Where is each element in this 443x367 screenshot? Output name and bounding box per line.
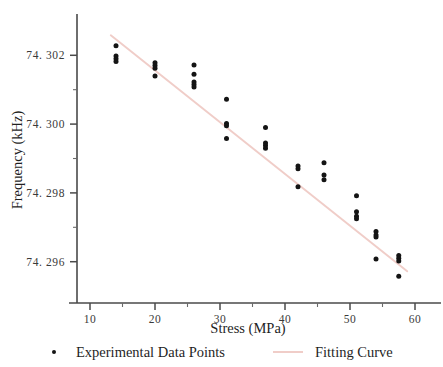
y-tick-labels: 74. 29674. 29874. 30074. 302 — [26, 49, 65, 267]
data-point — [153, 66, 158, 71]
legend-label-points: Experimental Data Points — [76, 344, 225, 361]
legend-entry-points: Experimental Data Points — [52, 344, 225, 361]
chart-figure: 74. 29674. 29874. 30074. 302 10203040506… — [0, 0, 443, 367]
data-point — [192, 62, 197, 67]
data-point — [224, 136, 229, 141]
data-points — [114, 43, 402, 279]
x-tick-label: 50 — [344, 313, 357, 325]
scatter-plot: 74. 29674. 29874. 30074. 302 10203040506… — [0, 0, 443, 367]
x-axis-title: Stress (MPa) — [210, 320, 285, 337]
data-point — [322, 173, 327, 178]
axes — [69, 14, 441, 303]
data-point — [396, 274, 401, 279]
legend-entry-fit: Fitting Curve — [273, 344, 393, 361]
data-point — [374, 234, 379, 239]
data-point — [114, 59, 119, 64]
chart-legend: Experimental Data Points Fitting Curve — [0, 340, 443, 364]
y-tick-marks — [70, 55, 77, 261]
data-point — [396, 259, 401, 264]
data-point — [322, 177, 327, 182]
y-tick-label: 74. 296 — [26, 256, 65, 268]
legend-label-fit: Fitting Curve — [315, 344, 393, 361]
data-point — [192, 72, 197, 77]
x-tick-label: 10 — [84, 313, 97, 325]
data-point — [114, 43, 119, 48]
data-point — [153, 73, 158, 78]
data-point — [296, 184, 301, 189]
data-point — [296, 166, 301, 171]
y-tick-label: 74. 300 — [26, 118, 65, 130]
data-point — [374, 256, 379, 261]
y-tick-label: 74. 298 — [26, 187, 65, 199]
data-point — [263, 125, 268, 130]
x-tick-label: 20 — [149, 313, 162, 325]
data-point — [263, 146, 268, 151]
x-tick-marks — [90, 303, 415, 310]
y-tick-label: 74. 302 — [26, 49, 65, 61]
x-tick-label: 60 — [409, 313, 422, 325]
data-point — [354, 209, 359, 214]
point-marker-icon — [52, 350, 56, 354]
data-point — [224, 97, 229, 102]
data-point — [192, 84, 197, 89]
data-point — [354, 216, 359, 221]
data-point — [322, 160, 327, 165]
y-axis-title: Frequency (kHz) — [9, 111, 26, 210]
data-point — [354, 193, 359, 198]
data-point — [224, 123, 229, 128]
line-swatch-icon — [273, 351, 303, 353]
